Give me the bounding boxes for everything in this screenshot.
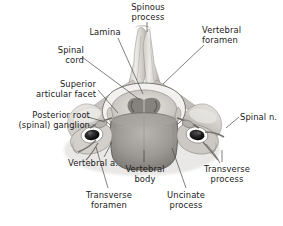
anatomy-figure: Spinous process Vertebral foramen Lamina…: [0, 0, 283, 226]
label-vertebral-a: Vertebral a.: [62, 158, 124, 168]
label-superior-articular-facet: Superior articular facet: [14, 79, 96, 99]
label-uncinate-process: Uncinate process: [158, 190, 214, 210]
label-spinal-n: Spinal n.: [240, 112, 283, 122]
label-spinous-process: Spinous process: [120, 2, 176, 22]
label-vertebral-body: Vertebral body: [118, 164, 172, 184]
label-transverse-process: Transverse process: [196, 164, 258, 184]
label-vertebral-foramen: Vertebral foramen: [202, 25, 262, 45]
label-spinal-cord: Spinal cord: [36, 45, 84, 65]
label-posterior-root-ganglion: Posterior root (spinal) ganglion: [4, 110, 90, 130]
label-lamina: Lamina: [84, 27, 126, 37]
label-transverse-foramen: Transverse foramen: [78, 190, 140, 210]
